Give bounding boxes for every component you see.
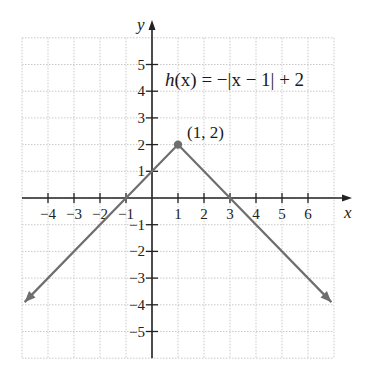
vertex-dot [174,140,182,148]
y-tick-label: −1 [129,217,145,233]
y-tick-label: 3 [138,110,146,126]
x-tick-label: 6 [304,206,312,222]
x-tick-label: −3 [66,206,82,222]
equation-func-name: h [165,69,175,90]
y-tick-label: 4 [138,83,146,99]
x-tick-label: 5 [278,206,286,222]
absolute-value-graph: −4−3−2−1123456−5−4−3−2−112345 x y (1, 2)… [0,0,372,379]
y-axis-label: y [135,15,145,34]
x-tick-label: −4 [40,206,56,222]
x-axis-arrow-icon [342,195,352,202]
equation-label: h(x) = −|x − 1| + 2 [165,69,304,91]
y-tick-label: −3 [129,270,145,286]
x-tick-label: 3 [226,206,234,222]
y-tick-label: −4 [129,297,145,313]
x-tick-label: 4 [252,206,260,222]
y-tick-label: 1 [138,163,146,179]
x-axis-label: x [343,203,352,222]
vertex-label: (1, 2) [187,123,224,142]
equation-body: (x) = −|x − 1| + 2 [175,69,305,91]
y-tick-label: 2 [138,137,146,153]
y-tick-label: 5 [138,57,146,73]
x-tick-label: 2 [200,206,208,222]
y-axis-arrow-icon [149,20,156,30]
y-tick-label: −2 [129,243,145,259]
x-tick-label: 1 [174,206,182,222]
y-tick-label: −5 [129,324,145,340]
